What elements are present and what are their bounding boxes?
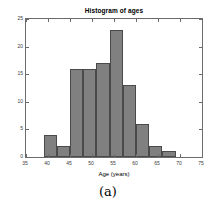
y-axis-tick-labels: 0510152025 xyxy=(0,18,23,158)
x-axis-tick-label: 50 xyxy=(81,161,101,166)
histogram-bar xyxy=(70,69,83,157)
x-axis-tick-label: 75 xyxy=(191,161,211,166)
x-axis-tick xyxy=(26,154,27,157)
x-axis-tick-label: 65 xyxy=(147,161,167,166)
y-axis-tick xyxy=(199,74,202,75)
y-axis-tick-label: 25 xyxy=(1,16,23,21)
x-axis-tick xyxy=(180,154,181,157)
chart-title: Histogram of ages xyxy=(25,7,203,14)
x-axis-tick xyxy=(136,19,137,22)
y-axis-tick-label: 10 xyxy=(1,99,23,104)
x-axis-tick-label: 60 xyxy=(125,161,145,166)
x-axis-tick xyxy=(114,154,115,157)
x-axis-label: Age (years) xyxy=(25,171,203,177)
y-axis-tick xyxy=(26,129,29,130)
histogram-bar xyxy=(83,69,96,157)
x-axis-tick xyxy=(48,154,49,157)
x-axis-tick-label: 40 xyxy=(37,161,57,166)
histogram-bar xyxy=(44,135,57,157)
x-axis-tick-label: 35 xyxy=(15,161,35,166)
x-axis-tick xyxy=(114,19,115,22)
x-axis-tick xyxy=(92,154,93,157)
histogram-bar xyxy=(57,146,70,157)
y-axis-tick xyxy=(26,47,29,48)
y-axis-tick xyxy=(26,74,29,75)
histogram-bar xyxy=(110,30,123,157)
x-axis-tick xyxy=(136,154,137,157)
x-axis-tick xyxy=(26,19,27,22)
x-axis-tick xyxy=(180,19,181,22)
y-axis-tick-label: 15 xyxy=(1,71,23,76)
figure-caption: (a) xyxy=(0,184,216,199)
x-axis-tick-label: 70 xyxy=(169,161,189,166)
x-axis-tick-labels: 354045505560657075 xyxy=(25,161,203,169)
x-axis-tick xyxy=(92,19,93,22)
plot-area xyxy=(26,19,202,157)
x-axis-tick-label: 45 xyxy=(59,161,79,166)
x-axis-tick xyxy=(48,19,49,22)
histogram-bar xyxy=(136,124,149,157)
x-axis-tick xyxy=(158,154,159,157)
y-axis-tick xyxy=(199,47,202,48)
histogram-bar xyxy=(162,151,175,157)
y-axis-tick xyxy=(199,102,202,103)
y-axis-tick xyxy=(26,102,29,103)
y-axis-tick-label: 0 xyxy=(1,154,23,159)
histogram-bar xyxy=(123,85,136,157)
x-axis-tick xyxy=(70,154,71,157)
figure-panel: Histogram of ages 0510152025 35404550556… xyxy=(0,0,216,206)
histogram-bar xyxy=(96,63,109,157)
plot-frame xyxy=(25,18,203,158)
x-axis-tick xyxy=(158,19,159,22)
x-axis-tick-label: 55 xyxy=(103,161,123,166)
histogram-bar xyxy=(149,146,162,157)
y-axis-tick-label: 20 xyxy=(1,44,23,49)
x-axis-tick xyxy=(70,19,71,22)
y-axis-tick-label: 5 xyxy=(1,126,23,131)
y-axis-tick xyxy=(199,129,202,130)
